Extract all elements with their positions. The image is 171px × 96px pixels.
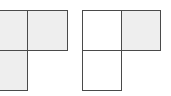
- right-cell-bottom-left: [82, 50, 122, 91]
- left-cell-top-right: [27, 10, 68, 51]
- left-cell-bottom-left: [0, 50, 28, 91]
- right-cell-top-right: [121, 10, 161, 51]
- right-cell-top-left: [82, 10, 122, 51]
- left-cell-top-left: [0, 10, 28, 51]
